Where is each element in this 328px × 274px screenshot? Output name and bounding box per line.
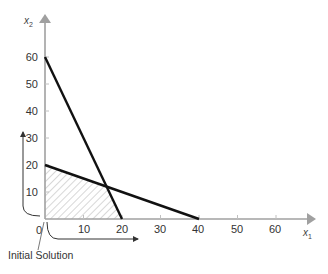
y-tick-label-40: 40 xyxy=(26,105,38,117)
x-axis-arrow-icon xyxy=(307,213,316,225)
x-tick-label-50: 50 xyxy=(231,223,243,235)
x-tick-label-30: 30 xyxy=(154,223,166,235)
y-tick-label-20: 20 xyxy=(26,159,38,171)
upward-search-arrow xyxy=(23,132,40,216)
y-tick-label-10: 10 xyxy=(26,186,38,198)
x-tick-label-20: 20 xyxy=(116,223,128,235)
x-tick-label-10: 10 xyxy=(78,223,90,235)
x-tick-label-60: 60 xyxy=(269,223,281,235)
x-tick-label-40: 40 xyxy=(192,223,204,235)
y-tick-label-60: 60 xyxy=(26,51,38,63)
x-axis-label: x1 xyxy=(302,227,312,240)
initial-solution-label: Initial Solution xyxy=(8,249,74,261)
y-axis-label: x2 xyxy=(23,15,33,28)
y-axis-arrow-icon xyxy=(39,14,51,23)
y-tick-label-30: 30 xyxy=(26,132,38,144)
linear-programming-chart: 10 20 30 40 50 60 0 10 20 30 40 50 60 x2… xyxy=(0,0,328,274)
y-tick-label-50: 50 xyxy=(26,78,38,90)
